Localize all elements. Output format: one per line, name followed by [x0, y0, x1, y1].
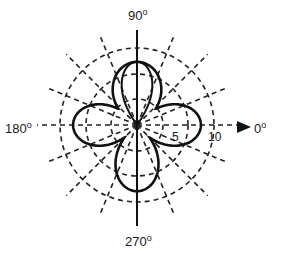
spoke-line [99, 34, 137, 125]
ring-label-5: 5 [172, 130, 179, 144]
spoke-line [137, 125, 175, 216]
spoke-line [137, 34, 175, 125]
axis-label-90: 90o [128, 7, 147, 23]
arrow-right-icon [237, 121, 251, 133]
axis-label-0: 0o [254, 120, 266, 136]
axis-label-270: 270o [125, 233, 152, 249]
axis-label-180: 180o [5, 120, 32, 136]
ring-label-10: 10 [208, 130, 222, 144]
polar-radiation-diagram: 5 10 90o 180o 270o 0o [0, 0, 293, 254]
